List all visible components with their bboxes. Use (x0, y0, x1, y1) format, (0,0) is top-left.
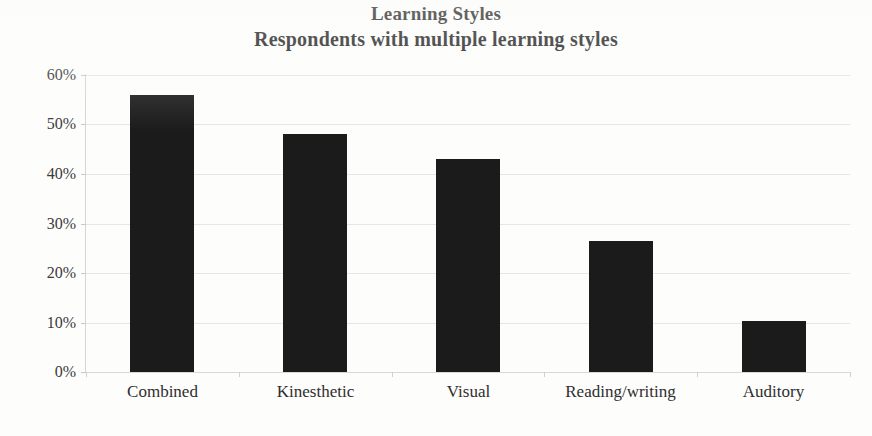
y-axis-tick-label: 40% (14, 166, 76, 182)
x-axis-tick-label: Visual (392, 382, 545, 402)
x-axis-tick (697, 372, 698, 377)
x-axis-tick-label: Auditory (697, 382, 850, 402)
chart-page: Learning Styles Respondents with multipl… (0, 0, 872, 436)
x-axis-tick-label: Reading/writing (544, 382, 697, 402)
x-axis-tick-label: Kinesthetic (239, 382, 392, 402)
y-axis-tick-label: 20% (14, 265, 76, 281)
bar-kinesthetic (283, 134, 347, 372)
plot-area (86, 75, 850, 372)
x-axis-tick (850, 372, 851, 377)
title-block: Learning Styles Respondents with multipl… (0, 2, 872, 52)
page-title: Learning Styles (0, 2, 872, 26)
y-axis-tick-label: 0% (14, 364, 76, 380)
bar-visual (436, 159, 500, 372)
x-axis-tick (544, 372, 545, 377)
y-axis-tick-label: 30% (14, 216, 76, 232)
x-axis-tick (392, 372, 393, 377)
x-axis-tick (239, 372, 240, 377)
y-axis-tick-label: 60% (14, 67, 76, 83)
gridline (86, 372, 850, 373)
bar-auditory (742, 321, 806, 372)
x-axis-tick-label: Combined (86, 382, 239, 402)
x-axis-tick (86, 372, 87, 377)
y-axis-tick-label: 10% (14, 315, 76, 331)
bar-reading-writing (589, 241, 653, 372)
bar-combined (130, 95, 194, 372)
y-axis-tick-label: 50% (14, 116, 76, 132)
chart-subtitle: Respondents with multiple learning style… (0, 26, 872, 52)
